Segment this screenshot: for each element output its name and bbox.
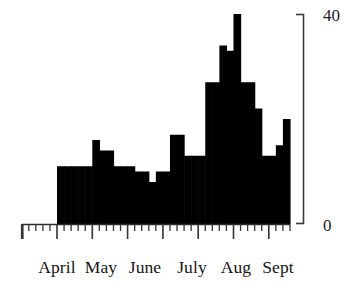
histogram-bar (113, 166, 121, 224)
histogram-bar (205, 82, 213, 224)
histogram-bar (177, 135, 185, 224)
histogram-bar (269, 156, 277, 224)
x-axis-label-may: May (85, 257, 118, 277)
histogram-bar (283, 119, 291, 224)
x-axis-label-july: July (177, 257, 207, 277)
histogram-bar (262, 156, 270, 224)
histogram-bar (248, 82, 256, 224)
histogram-bar (64, 166, 72, 224)
histogram-bar (135, 172, 143, 225)
y-axis-top-label: 40 (323, 6, 340, 25)
histogram-bar (255, 109, 263, 225)
histogram-bar (106, 151, 114, 225)
histogram-bar (212, 82, 220, 224)
histogram-bar (241, 82, 249, 224)
histogram-bar (226, 51, 234, 224)
histogram-bar (184, 156, 192, 224)
histogram-bar (234, 14, 242, 224)
histogram-bar (71, 166, 79, 224)
histogram-bar (92, 140, 100, 224)
histogram-bar (121, 166, 129, 224)
histogram-bar (170, 135, 178, 224)
histogram-bar (85, 166, 93, 224)
histogram-bar (276, 145, 284, 224)
histogram-bar (57, 166, 65, 224)
histogram-figure: 40 0 April May June July Aug Sept (0, 0, 359, 299)
histogram-svg: 40 0 April May June July Aug Sept (0, 0, 359, 299)
x-axis-label-june: June (129, 257, 162, 277)
x-axis-label-aug: Aug (221, 257, 252, 277)
histogram-bar (142, 172, 150, 225)
histogram-bar (191, 156, 199, 224)
histogram-bar (99, 151, 107, 225)
histogram-bar (78, 166, 86, 224)
histogram-bar (149, 182, 157, 224)
histogram-bar (198, 156, 206, 224)
x-axis-label-april: April (38, 257, 75, 277)
x-axis-label-sept: Sept (262, 257, 294, 277)
histogram-bar (163, 172, 171, 225)
histogram-bar (219, 46, 227, 225)
histogram-bar (156, 172, 164, 225)
histogram-bar (128, 166, 136, 224)
y-axis-bottom-label: 0 (323, 216, 332, 235)
